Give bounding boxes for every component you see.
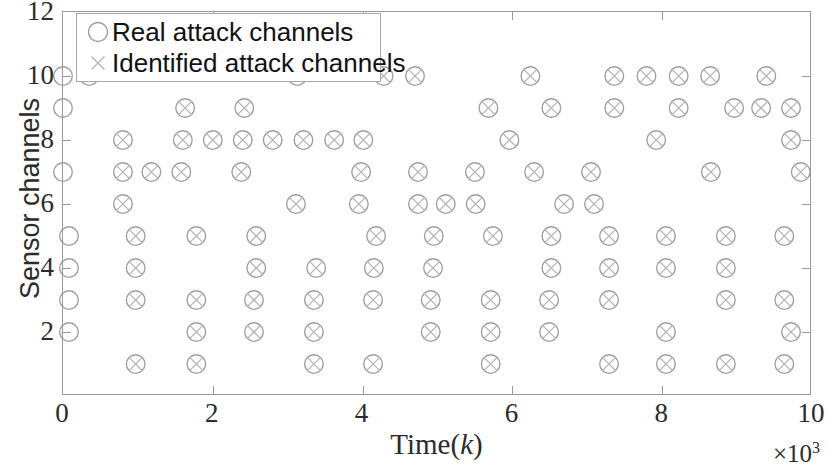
legend-entry-real: Real attack channels: [83, 16, 376, 48]
x-axis-exponent-base: ×10: [773, 440, 812, 467]
scatter-chart-figure: 0246810 24681012 Time(k) Sensor channels…: [0, 0, 828, 467]
x-axis-title-text: Time(k): [390, 428, 482, 460]
y-axis-title: Sensor channels: [17, 19, 44, 379]
x-axis-exponent-power: 3: [812, 439, 820, 456]
legend-box: Real attack channels Identified attack c…: [76, 13, 381, 82]
legend-circle-marker-icon: [83, 17, 113, 47]
x-axis-title: Time(k): [62, 430, 811, 459]
legend-label-identified: Identified attack channels: [112, 50, 405, 76]
x-axis-exponent-label: ×103: [773, 440, 820, 466]
y-axis-title-text: Sensor channels: [15, 98, 45, 299]
legend-entry-identified: Identified attack channels: [83, 47, 376, 79]
legend-x-marker-icon: [83, 48, 113, 78]
legend-label-real: Real attack channels: [112, 19, 353, 45]
